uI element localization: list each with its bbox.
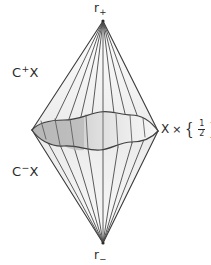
label-apex-top-sign: + [99,7,106,17]
label-upper-cone-letter: C [12,65,21,80]
label-base-slice: X × { 1 2 } [161,120,211,138]
label-base-slice-brace-open: { [186,121,195,138]
label-upper-cone-space: X [30,65,39,80]
suspension-figure: r+ r− C+X C−X X × { 1 2 } [0,0,211,265]
label-apex-top: r+ [94,2,107,14]
label-base-slice-fraction: 1 2 [198,120,205,138]
label-apex-bottom-sign: − [99,254,106,264]
bottom-apex-point [101,241,104,244]
label-base-slice-brace-close: } [209,121,211,138]
label-upper-cone: C+X [12,66,39,79]
label-upper-cone-sign: + [21,63,29,74]
label-lower-cone-space: X [30,164,39,179]
top-apex-point [101,19,104,22]
fraction-denominator: 2 [198,130,205,138]
label-lower-cone-letter: C [12,164,21,179]
label-lower-cone: C−X [12,165,39,178]
label-lower-cone-sign: − [21,162,29,173]
label-apex-bottom: r− [94,249,107,261]
fraction-numerator: 1 [198,120,205,128]
label-base-slice-space: X [161,123,169,135]
label-base-slice-times: × [172,124,181,135]
